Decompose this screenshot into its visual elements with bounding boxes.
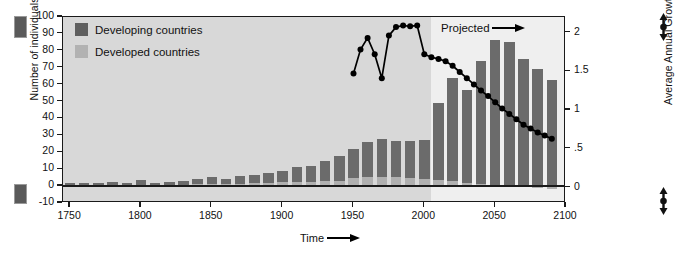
y-tick-mark-left bbox=[57, 32, 62, 33]
y-tick-label-left: 100 bbox=[22, 9, 54, 21]
y-tick-label-left: 40 bbox=[22, 110, 54, 122]
y-tick-mark-left bbox=[57, 49, 62, 50]
growth-rate-point bbox=[499, 106, 505, 112]
y-tick-label-left: 70 bbox=[22, 60, 54, 72]
x-tick-label: 2050 bbox=[474, 209, 514, 221]
growth-rate-point bbox=[535, 130, 541, 136]
legend-swatch-developed bbox=[75, 45, 88, 58]
x-tick-label: 1800 bbox=[120, 209, 160, 221]
projected-arrow-icon bbox=[492, 24, 532, 32]
y-tick-label-right: .5 bbox=[574, 141, 604, 153]
right-top-double-arrow-icon bbox=[657, 12, 670, 42]
x-axis-title: Time bbox=[300, 232, 361, 244]
y-tick-label-right: 1 bbox=[574, 102, 604, 114]
growth-rate-point bbox=[521, 122, 527, 128]
y-tick-mark-left bbox=[57, 168, 62, 169]
growth-rate-point bbox=[464, 75, 470, 81]
right-arrow-icon bbox=[327, 234, 361, 242]
legend: Developing countries Developed countries bbox=[75, 23, 202, 67]
y-tick-mark-left bbox=[57, 201, 62, 202]
x-tick-label: 1950 bbox=[332, 209, 372, 221]
y-tick-label-left: 50 bbox=[22, 94, 54, 106]
projected-annotation: Projected bbox=[441, 22, 532, 34]
growth-rate-point bbox=[492, 99, 498, 105]
x-tick-mark bbox=[210, 202, 211, 207]
x-tick-mark bbox=[68, 202, 69, 207]
growth-rate-point bbox=[358, 47, 364, 53]
y-tick-label-left: 30 bbox=[22, 127, 54, 139]
y-tick-mark-right bbox=[565, 70, 570, 71]
y-tick-mark-right bbox=[565, 186, 570, 187]
y-tick-label-right: 1.5 bbox=[574, 63, 604, 75]
y-tick-label-left: 20 bbox=[22, 144, 54, 156]
growth-rate-point bbox=[372, 51, 378, 57]
y-tick-label-left: 60 bbox=[22, 77, 54, 89]
legend-item-developed: Developed countries bbox=[75, 45, 202, 58]
y-tick-mark-left bbox=[57, 117, 62, 118]
growth-rate-point bbox=[506, 111, 512, 117]
growth-rate-point bbox=[542, 133, 548, 139]
growth-rate-point bbox=[421, 51, 427, 57]
growth-rate-point bbox=[351, 71, 357, 77]
y-tick-label-left: 0 bbox=[22, 178, 54, 190]
legend-label-developing: Developing countries bbox=[95, 24, 202, 36]
growth-rate-point bbox=[428, 54, 434, 60]
growth-rate-point bbox=[443, 58, 449, 64]
y-tick-label-left: 80 bbox=[22, 43, 54, 55]
y-tick-mark-right bbox=[565, 108, 570, 109]
growth-rate-point bbox=[478, 88, 484, 94]
y-tick-label-right: 0 bbox=[574, 180, 604, 192]
x-tick-mark bbox=[564, 202, 565, 207]
y-tick-label-left: -10 bbox=[22, 195, 54, 207]
growth-rate-path bbox=[354, 26, 552, 139]
population-growth-chart: Number of individuals (millions) Average… bbox=[0, 0, 686, 257]
y-tick-mark-right bbox=[565, 31, 570, 32]
legend-item-developing: Developing countries bbox=[75, 23, 202, 36]
y-tick-mark-left bbox=[57, 15, 62, 16]
x-tick-label: 2100 bbox=[545, 209, 585, 221]
y-tick-mark-right bbox=[565, 147, 570, 148]
growth-rate-point bbox=[407, 23, 413, 29]
x-tick-mark bbox=[352, 202, 353, 207]
growth-rate-point bbox=[457, 69, 463, 75]
y-tick-label-left: 90 bbox=[22, 26, 54, 38]
growth-rate-point bbox=[379, 75, 385, 81]
growth-rate-point bbox=[471, 81, 477, 87]
x-tick-mark bbox=[423, 202, 424, 207]
y-tick-mark-left bbox=[57, 66, 62, 67]
y-tick-mark-left bbox=[57, 100, 62, 101]
x-tick-label: 2000 bbox=[403, 209, 443, 221]
growth-rate-point bbox=[393, 24, 399, 30]
projected-label: Projected bbox=[441, 22, 490, 34]
growth-rate-point bbox=[414, 23, 420, 29]
x-tick-label: 1850 bbox=[191, 209, 231, 221]
growth-rate-point bbox=[386, 33, 392, 39]
legend-swatch-developing bbox=[75, 23, 88, 36]
growth-rate-point bbox=[513, 116, 519, 122]
x-tick-mark bbox=[139, 202, 140, 207]
x-tick-mark bbox=[281, 202, 282, 207]
y-tick-mark-left bbox=[57, 151, 62, 152]
growth-rate-point bbox=[528, 126, 534, 132]
growth-rate-point bbox=[436, 56, 442, 62]
right-bottom-double-arrow-icon bbox=[657, 186, 670, 216]
x-tick-label: 1900 bbox=[262, 209, 302, 221]
legend-label-developed: Developed countries bbox=[95, 46, 200, 58]
growth-rate-point bbox=[549, 136, 555, 142]
growth-rate-point bbox=[485, 93, 491, 99]
y-tick-label-right: 2 bbox=[574, 25, 604, 37]
growth-rate-point bbox=[400, 23, 406, 29]
x-tick-mark bbox=[494, 202, 495, 207]
y-tick-mark-left bbox=[57, 134, 62, 135]
y-tick-mark-left bbox=[57, 83, 62, 84]
growth-rate-point bbox=[450, 63, 456, 69]
growth-rate-point bbox=[365, 35, 371, 41]
x-tick-label: 1750 bbox=[49, 209, 89, 221]
plot-area: Developing countries Developed countries… bbox=[62, 16, 565, 202]
y-tick-label-left: 10 bbox=[22, 161, 54, 173]
y-tick-mark-left bbox=[57, 184, 62, 185]
x-axis-title-text: Time bbox=[300, 232, 324, 244]
